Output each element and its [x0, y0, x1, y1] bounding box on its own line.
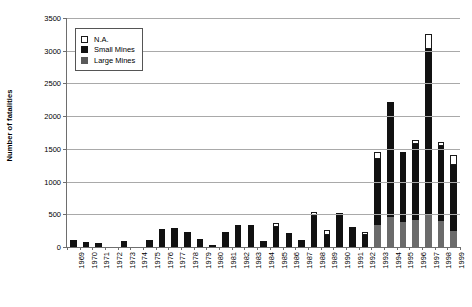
x-tick-mark: [130, 247, 131, 250]
bar-stack: [374, 152, 381, 247]
bar-stack: [450, 155, 457, 247]
chart-legend: N.A. Small Mines Large Mines: [75, 28, 143, 71]
y-tick-label: 3500: [44, 14, 61, 23]
bar-stack: [311, 212, 318, 247]
x-axis-label: 1994: [394, 252, 403, 269]
bar-segment-small-mines: [171, 228, 178, 247]
bar-segment-large-mines: [374, 225, 381, 247]
y-tick-label: 0: [57, 243, 61, 252]
x-tick-mark: [384, 247, 385, 250]
x-tick-mark: [232, 247, 233, 250]
legend-swatch-small-mines-icon: [81, 46, 88, 53]
x-axis-label: 1990: [343, 252, 352, 269]
x-axis-label: 1997: [432, 252, 441, 269]
bar-stack: [121, 241, 128, 247]
x-tick-mark: [244, 247, 245, 250]
bar-segment-large-mines: [425, 214, 432, 247]
x-tick-mark: [143, 247, 144, 250]
x-axis-label: 1985: [280, 252, 289, 269]
x-axis-label: 1993: [381, 252, 390, 269]
bar-segment-small-mines: [83, 242, 90, 247]
x-axis-label: 1977: [178, 252, 187, 269]
x-tick-mark: [346, 247, 347, 250]
x-tick-mark: [181, 247, 182, 250]
x-axis-label: 1988: [318, 252, 327, 269]
bar-segment-small-mines: [362, 235, 369, 247]
bar-segment-large-mines: [438, 221, 445, 247]
x-tick-mark: [447, 247, 448, 250]
y-tick-mark: [63, 18, 67, 19]
x-axis-label: 1974: [140, 252, 149, 269]
x-axis-label: 1969: [77, 252, 86, 269]
x-tick-mark: [270, 247, 271, 250]
legend-swatch-na-icon: [81, 36, 88, 43]
bar-segment-small-mines: [324, 235, 331, 247]
x-axis-label: 1992: [368, 252, 377, 269]
x-axis-label: 1972: [115, 252, 124, 269]
x-tick-mark: [321, 247, 322, 250]
x-tick-mark: [460, 247, 461, 250]
x-tick-mark: [308, 247, 309, 250]
y-axis-title-label: Number of fatalities: [5, 89, 14, 161]
x-tick-mark: [257, 247, 258, 250]
bar-segment-small-mines: [387, 102, 394, 217]
gridline: [67, 149, 460, 150]
x-tick-mark: [359, 247, 360, 250]
legend-label-large-mines: Large Mines: [94, 56, 135, 65]
bar-segment-large-mines: [387, 217, 394, 247]
bar-stack: [286, 233, 293, 247]
x-axis-label: 1973: [128, 252, 137, 269]
x-axis-label: 1986: [292, 252, 301, 269]
x-axis-label: 1989: [330, 252, 339, 269]
legend-item-small-mines: Small Mines: [81, 45, 135, 54]
fatalities-bar-chart: Number of fatalities 0500100015002000250…: [0, 0, 472, 307]
bar-segment-small-mines: [248, 225, 255, 247]
x-axis-label: 1970: [90, 252, 99, 269]
y-tick-label: 1000: [44, 177, 61, 186]
bar-stack: [171, 228, 178, 247]
x-tick-mark: [156, 247, 157, 250]
y-tick-label: 500: [48, 210, 61, 219]
gridline: [67, 182, 460, 183]
x-tick-mark: [333, 247, 334, 250]
bar-segment-large-mines: [450, 231, 457, 247]
bar-stack: [324, 230, 331, 247]
bar-stack: [222, 232, 229, 247]
bar-stack: [273, 223, 280, 247]
x-axis-label: 1996: [419, 252, 428, 269]
legend-swatch-large-mines-icon: [81, 57, 88, 64]
bar-segment-small-mines: [121, 241, 128, 247]
bar-stack: [412, 140, 419, 247]
x-axis-label: 1991: [356, 252, 365, 269]
x-tick-mark: [422, 247, 423, 250]
bar-segment-small-mines: [374, 159, 381, 226]
bar-segment-na: [450, 155, 457, 165]
x-tick-mark: [92, 247, 93, 250]
gridline: [67, 214, 460, 215]
bar-stack: [349, 227, 356, 247]
bar-segment-small-mines: [400, 152, 407, 222]
x-axis-label: 1981: [229, 252, 238, 269]
y-tick-mark: [63, 214, 67, 215]
bar-stack: [197, 239, 204, 247]
x-tick-mark: [283, 247, 284, 250]
bar-segment-small-mines: [450, 165, 457, 230]
x-tick-mark: [67, 247, 68, 250]
bar-segment-small-mines: [95, 243, 102, 247]
bar-stack: [83, 242, 90, 247]
x-tick-mark: [168, 247, 169, 250]
y-tick-mark: [63, 149, 67, 150]
bar-stack: [235, 225, 242, 247]
bar-segment-small-mines: [235, 225, 242, 247]
bar-stack: [400, 152, 407, 247]
bar-stack: [70, 240, 77, 247]
x-axis-label: 1979: [204, 252, 213, 269]
bar-segment-small-mines: [209, 245, 216, 247]
x-tick-mark: [219, 247, 220, 250]
gridline: [67, 116, 460, 117]
y-tick-label: 2500: [44, 79, 61, 88]
bar-stack: [159, 229, 166, 247]
bar-segment-large-mines: [412, 220, 419, 247]
x-axis-label: 1995: [406, 252, 415, 269]
bar-segment-small-mines: [70, 240, 77, 247]
